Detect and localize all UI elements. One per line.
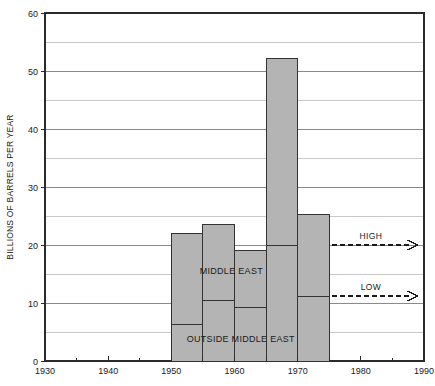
y-axis-title: BILLIONS OF BARRELS PER YEAR <box>5 114 15 259</box>
y-tick-label-50: 50 <box>28 67 38 77</box>
y-tick-label-30: 30 <box>28 183 38 193</box>
chart-container: 1930194019501960197019801990 01020304050… <box>0 0 435 386</box>
y-tick-label-40: 40 <box>28 125 38 135</box>
y-axis-tick-labels: 0102030405060 <box>28 9 38 367</box>
x-tick-label-1940: 1940 <box>98 366 118 376</box>
bar-segment-middle-east <box>235 251 267 308</box>
bar-segment-middle-east <box>298 214 330 296</box>
x-tick-label-1930: 1930 <box>35 366 55 376</box>
bar-segment-middle-east <box>171 233 203 324</box>
series-label-outside-middle-east: OUTSIDE MIDDLE EAST <box>187 334 295 344</box>
annotation-low-label: LOW <box>361 282 382 292</box>
bar-series-group <box>171 58 329 361</box>
bar-segment-middle-east <box>203 225 235 300</box>
x-tick-label-1990: 1990 <box>414 366 434 376</box>
x-axis-ticks <box>77 356 393 361</box>
y-tick-label-60: 60 <box>28 9 38 19</box>
bar-segment-middle-east <box>266 58 298 245</box>
bar-1965-1970 <box>266 58 298 361</box>
x-tick-label-1980: 1980 <box>351 366 371 376</box>
annotation-high-label: HIGH <box>360 231 383 241</box>
annotation-low: LOW <box>332 282 417 301</box>
x-tick-label-1950: 1950 <box>161 366 181 376</box>
bar-1970-1975 <box>298 214 330 361</box>
bar-segment-outside-middle-east <box>298 296 330 361</box>
x-tick-label-1960: 1960 <box>224 366 244 376</box>
x-tick-label-1970: 1970 <box>288 366 308 376</box>
x-axis-tick-labels: 1930194019501960197019801990 <box>35 366 434 376</box>
series-label-middle-east: MIDDLE EAST <box>200 266 264 276</box>
y-tick-label-20: 20 <box>28 241 38 251</box>
oil-production-bar-chart: 1930194019501960197019801990 01020304050… <box>0 0 435 386</box>
annotation-high: HIGH <box>332 231 417 250</box>
y-tick-label-0: 0 <box>33 357 38 367</box>
annotations-group: HIGHLOW <box>332 231 417 301</box>
bar-segment-outside-middle-east <box>203 300 235 361</box>
y-tick-label-10: 10 <box>28 299 38 309</box>
